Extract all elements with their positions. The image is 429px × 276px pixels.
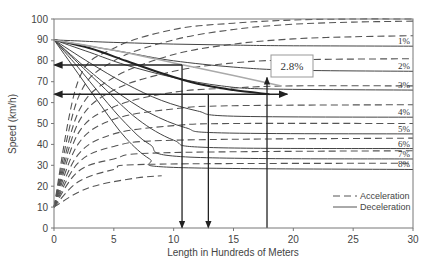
y-tick-label: 90 [37,34,49,45]
x-axis-ticks: 051015202530 [51,228,419,245]
grade-label: 1% [398,36,411,46]
annotation-2.8-percent: 2.8% [271,55,313,77]
legend-label-acceleration: Acceleration [360,191,410,201]
deceleration-curve [54,40,413,159]
y-tick-label: 30 [37,160,49,171]
acceleration-curve [54,19,413,207]
grade-label: 4% [398,107,411,117]
x-axis-title: Length in Hundreds of Meters [167,247,299,258]
x-tick-label: 30 [407,234,419,245]
y-tick-label: 10 [37,202,49,213]
annotation-2.8-label: 2.8% [281,60,304,72]
grade-labels: 1%2%3%4%5%6%7%8% [398,36,411,169]
grade-label: 3% [398,80,411,90]
acceleration-curve [54,176,162,207]
grade-label: 5% [398,124,411,134]
y-tick-label: 70 [37,76,49,87]
x-tick-label: 25 [348,234,360,245]
grade-label: 7% [398,149,411,159]
x-tick-label: 15 [228,234,240,245]
speed-distance-chart: 0102030405060708090100 051015202530 1%2%… [0,0,429,276]
y-tick-label: 40 [37,139,49,150]
x-tick-label: 20 [288,234,300,245]
grade-label: 2% [398,61,411,71]
y-axis-ticks: 0102030405060708090100 [31,14,54,234]
y-tick-label: 0 [42,223,48,234]
grade-label: 6% [398,139,411,149]
x-tick-label: 5 [111,234,117,245]
legend: Acceleration Deceleration [333,191,411,212]
y-tick-label: 100 [31,14,48,25]
legend-label-deceleration: Deceleration [360,202,411,212]
x-tick-label: 0 [51,234,57,245]
deceleration-curve [54,40,413,46]
y-tick-label: 80 [37,55,49,66]
grade-label: 8% [398,159,411,169]
acceleration-curves [54,19,413,207]
y-tick-label: 50 [37,118,49,129]
y-tick-label: 20 [37,181,49,192]
y-axis-title: Speed (km/h) [7,94,18,154]
y-tick-label: 60 [37,97,49,108]
x-tick-label: 10 [168,234,180,245]
